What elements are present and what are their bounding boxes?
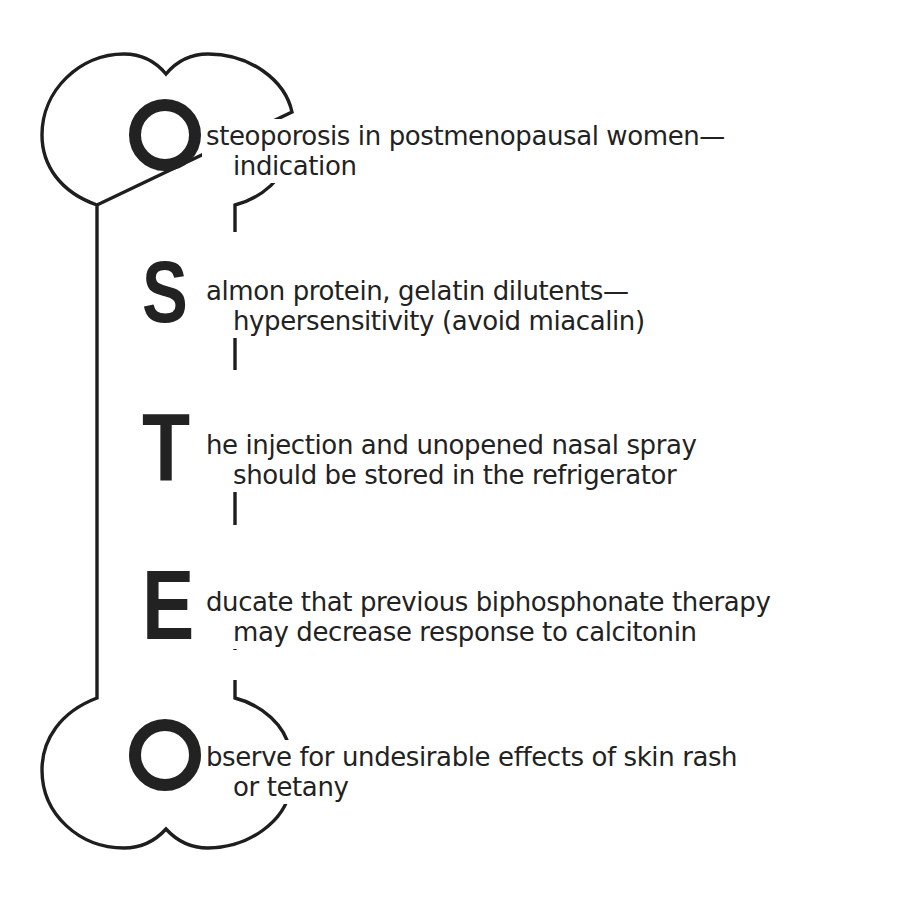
entry-text-line2: hypersensitivity (avoid miacalin) [206,306,645,336]
mnemonic-entry-salmon: almon protein, gelatin dilutents— hypers… [202,274,645,338]
mnemonic-entry-observe: bserve for undesirable effects of skin r… [202,740,737,804]
letter-o-top [135,105,195,165]
entry-text-line2: indication [206,151,725,181]
entry-text-line1: steoporosis in postmenopausal women— [206,121,725,151]
entry-text-line1: bserve for undesirable effects of skin r… [206,742,737,772]
entry-text-line1: he injection and unopened nasal spray [206,430,696,460]
entry-text-line1: almon protein, gelatin dilutents— [206,276,645,306]
mnemonic-entry-storage: he injection and unopened nasal spray sh… [202,428,696,492]
letter-s: S [142,248,189,336]
mnemonic-entry-educate: ducate that previous biphosphonate thera… [202,585,770,649]
mnemonic-entry-osteoporosis: steoporosis in postmenopausal women— ind… [202,119,725,183]
letter-t: T [141,400,190,496]
entry-text-line2: should be stored in the refrigerator [206,460,696,490]
letter-e: E [142,556,190,654]
letter-o-bottom [135,725,195,785]
entry-text-line1: ducate that previous biphosphonate thera… [206,587,770,617]
entry-text-line2: or tetany [206,772,737,802]
entry-text-line2: may decrease response to calcitonin [206,617,770,647]
